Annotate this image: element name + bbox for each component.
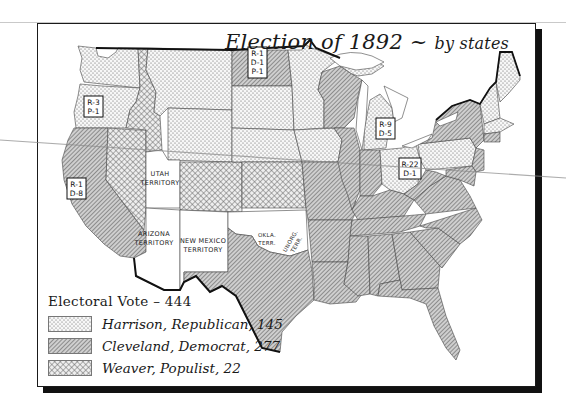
svg-text:ARIZONA: ARIZONA [138,230,170,238]
svg-text:P-1: P-1 [88,107,100,116]
svg-text:UTAH: UTAH [151,170,170,178]
hatch-pattern-swatch-icon [48,338,92,354]
svg-text:R-3: R-3 [87,98,100,107]
state-connecticut-rhode-island [484,132,500,142]
state-colorado [180,162,242,212]
state-indiana [360,150,382,196]
title-subtitle: by states [435,34,509,53]
state-nebraska [232,128,302,162]
title-main: Election of 1892 [225,30,403,54]
svg-text:TERR.: TERR. [257,240,276,246]
legend-label-republican: Harrison, Republican, 145 [102,316,283,332]
legend-item-democrat: Cleveland, Democrat, 277 [48,335,283,357]
svg-text:R-9: R-9 [379,120,392,129]
label-california: R-1 D-8 [67,178,86,199]
svg-text:TERRITORY: TERRITORY [134,239,174,247]
state-washington [78,46,140,88]
svg-text:TERRITORY: TERRITORY [140,179,180,187]
legend-item-populist: Weaver, Populist, 22 [48,357,283,379]
state-south-dakota [232,86,294,130]
state-iowa [294,128,342,162]
svg-text:D-1: D-1 [251,58,264,67]
svg-text:TERRITORY: TERRITORY [183,246,223,254]
legend-label-democrat: Cleveland, Democrat, 277 [102,338,280,354]
svg-text:OKLA.: OKLA. [258,232,276,238]
crosshatch-pattern-swatch-icon [48,360,92,376]
legend: Electoral Vote – 444 Harrison, Republica… [48,293,283,379]
legend-title: Electoral Vote – 444 [48,293,283,309]
title-separator: ~ [410,30,428,54]
state-florida [378,280,460,360]
map-title: Election of 1892 ~ by states [225,30,509,54]
legend-item-republican: Harrison, Republican, 145 [48,313,283,335]
svg-text:D-8: D-8 [70,189,83,198]
label-michigan: R-9 D-5 [376,118,395,139]
svg-text:NEW MEXICO: NEW MEXICO [180,237,226,245]
label-oregon: R-3 P-1 [84,96,103,117]
state-wyoming [168,108,232,162]
svg-text:D-1: D-1 [403,169,416,178]
svg-text:R-22: R-22 [401,160,418,169]
legend-label-populist: Weaver, Populist, 22 [102,360,241,376]
svg-text:D-5: D-5 [379,129,392,138]
state-kansas [242,162,306,208]
label-ohio: R-22 D-1 [399,158,421,179]
dots-pattern-swatch-icon [48,316,92,332]
state-montana [146,48,232,116]
svg-text:R-1: R-1 [70,180,83,189]
svg-text:P-1: P-1 [252,67,264,76]
state-arkansas [308,220,352,262]
